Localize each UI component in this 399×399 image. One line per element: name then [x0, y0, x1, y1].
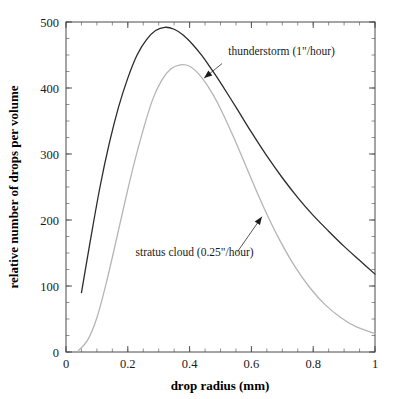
- y-tick-label: 100: [40, 280, 59, 294]
- chart-figure: 00.20.40.60.81 0100200300400500 thunders…: [0, 0, 399, 399]
- x-tick-label: 1: [372, 357, 378, 371]
- y-tick-label: 200: [40, 214, 59, 228]
- x-tick-label: 0: [63, 357, 69, 371]
- x-axis-title: drop radius (mm): [171, 378, 270, 393]
- x-tick-label: 0.8: [305, 357, 321, 371]
- x-tick-label: 0.2: [120, 357, 136, 371]
- y-tick-label: 0: [53, 346, 59, 360]
- y-tick-label: 300: [40, 148, 59, 162]
- thunderstorm-annotation: thunderstorm (1"/hour): [228, 45, 335, 58]
- drop-size-distribution-chart: 00.20.40.60.81 0100200300400500 thunders…: [0, 0, 399, 399]
- y-axis-title: relative number of drops per volume: [6, 85, 21, 288]
- x-tick-label: 0.6: [244, 357, 260, 371]
- stratus-cloud-annotation: stratus cloud (0.25"/hour): [136, 246, 254, 259]
- y-tick-label: 400: [40, 82, 59, 96]
- y-tick-label: 500: [40, 16, 59, 30]
- x-tick-label: 0.4: [182, 357, 198, 371]
- chart-background: [0, 0, 399, 399]
